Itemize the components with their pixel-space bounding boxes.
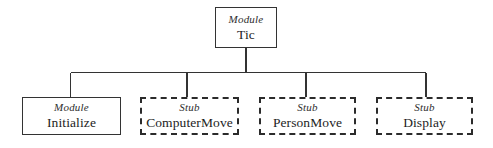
node-name-label: Initialize: [47, 115, 96, 131]
node-name-label: Tic: [237, 27, 255, 43]
node-type-label: Stub: [414, 101, 434, 114]
node-type-label: Module: [54, 101, 89, 114]
node-name-label: Display: [403, 115, 446, 131]
node-root-module-tic[interactable]: Module Tic: [215, 7, 277, 48]
node-child-display[interactable]: Stub Display: [376, 97, 473, 135]
node-type-label: Stub: [179, 101, 199, 114]
node-type-label: Module: [229, 13, 264, 26]
node-child-personmove[interactable]: Stub PersonMove: [259, 97, 356, 135]
node-child-computermove[interactable]: Stub ComputerMove: [140, 97, 239, 135]
node-type-label: Stub: [297, 101, 317, 114]
structure-chart-diagram: Module Tic Module Initialize Stub Comput…: [0, 0, 493, 148]
node-name-label: PersonMove: [273, 115, 342, 131]
node-child-initialize[interactable]: Module Initialize: [22, 97, 121, 135]
node-name-label: ComputerMove: [146, 115, 233, 131]
